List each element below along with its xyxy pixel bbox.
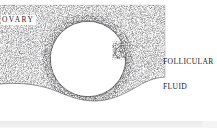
figure-page: OVARY FOLLICULAR FLUID bbox=[0, 0, 217, 128]
follicular-antrum bbox=[51, 22, 125, 96]
ovary-figure-plate: OVARY FOLLICULAR FLUID bbox=[0, 0, 217, 112]
label-follicular-fluid: FOLLICULAR FLUID bbox=[163, 42, 214, 107]
next-plate-strip-tail bbox=[202, 121, 217, 128]
label-ovary: OVARY bbox=[1, 15, 36, 25]
next-plate-strip bbox=[0, 121, 202, 128]
label-follicular-fluid-line2: FLUID bbox=[163, 82, 214, 92]
label-follicular-fluid-line1: FOLLICULAR bbox=[163, 57, 214, 67]
